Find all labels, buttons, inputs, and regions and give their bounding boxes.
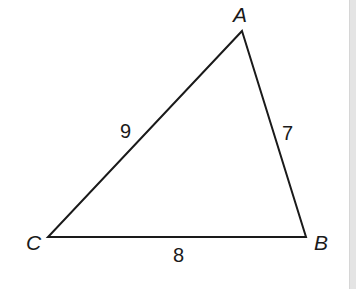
triangle-figure: A B C 9 7 8 [0, 0, 356, 289]
side-label-cb: 8 [173, 244, 184, 266]
triangle-diagram: A B C 9 7 8 [0, 0, 356, 289]
vertex-label-b: B [314, 231, 328, 254]
side-label-ca: 9 [120, 120, 131, 142]
triangle-abc [48, 31, 306, 237]
right-edge-strip [349, 0, 356, 289]
vertex-label-a: A [231, 3, 247, 26]
side-label-ab: 7 [282, 122, 293, 144]
vertex-label-c: C [26, 231, 42, 254]
